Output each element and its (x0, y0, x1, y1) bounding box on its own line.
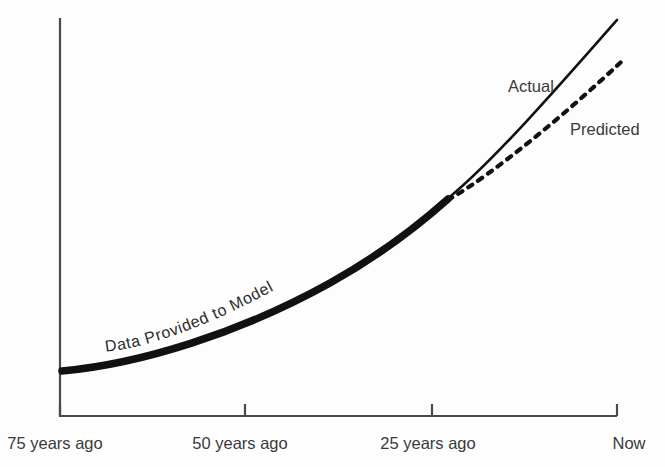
x-tick-label-3: Now (612, 434, 645, 452)
label-actual: Actual (508, 77, 554, 95)
series-actual (446, 20, 617, 200)
label-predicted: Predicted (570, 120, 640, 138)
x-tick-label-2: 25 years ago (380, 434, 475, 452)
x-tick-label-1: 50 years ago (192, 434, 287, 452)
x-tick-label-0: 75 years ago (7, 434, 102, 452)
growth-forecast-chart: Data Provided to Model Actual Predicted … (0, 0, 665, 467)
chart-canvas: Data Provided to Model Actual Predicted … (0, 0, 665, 467)
